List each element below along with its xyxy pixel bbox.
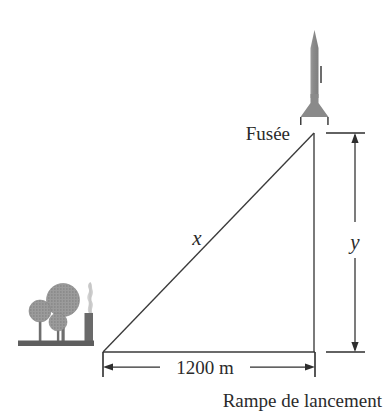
tree-small-mid-canopy [49,313,67,331]
rocket-leg-left [300,117,302,125]
rocket-stripe-icon [320,66,322,83]
hypotenuse-label: x [191,226,202,250]
tree-large-canopy [47,284,80,317]
height-label: y [348,230,360,254]
triangle-hypotenuse [103,133,314,352]
tree-small-left-canopy [29,300,51,322]
height-dimension-group: y [326,133,365,352]
base-distance-label: 1200 m [176,357,234,378]
rocket-triangle-figure: 1200 m y Fusée x Rampe de lancement [0,0,388,419]
scenery-group [18,282,94,346]
rocket-body [311,30,319,98]
rocket-leg-right [327,117,329,125]
launch-pad-label: Rampe de lancement [223,390,383,411]
ground-line [18,341,94,347]
diagram-canvas: 1200 m y Fusée x Rampe de lancement [0,0,388,419]
base-dim-arrow-left [103,363,113,370]
triangle-group [103,133,315,352]
height-dim-arrow-top [351,133,358,143]
rocket-label: Fusée [246,123,290,144]
base-dim-arrow-right [305,363,315,370]
launch-tower [85,313,94,341]
height-dim-arrow-bottom [351,342,358,352]
rocket-fins [301,94,329,117]
smoke-plume [87,282,93,313]
base-dimension-group: 1200 m [103,352,315,378]
rocket-icon [300,30,329,125]
